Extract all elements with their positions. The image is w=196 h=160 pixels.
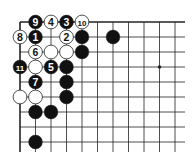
- white-stone-8: 8: [13, 30, 27, 44]
- move-number: 5: [48, 61, 54, 73]
- move-number: 3: [64, 16, 70, 28]
- black-stone: [60, 60, 74, 74]
- white-stone-6: 6: [29, 45, 43, 59]
- move-number: 1: [33, 31, 39, 43]
- white-stone: [29, 90, 43, 104]
- move-number: 8: [17, 31, 23, 43]
- white-stone: [60, 45, 74, 59]
- move-number: 9: [33, 16, 39, 28]
- black-stone: [75, 45, 89, 59]
- white-stone: [13, 90, 27, 104]
- move-number: 2: [64, 31, 70, 43]
- go-board-diagram: 9431081261157: [0, 0, 196, 160]
- white-stone: [29, 60, 43, 74]
- move-number: 7: [33, 76, 39, 88]
- white-stone: [44, 45, 58, 59]
- move-number: 4: [48, 16, 54, 28]
- black-stone-7: 7: [29, 75, 43, 89]
- black-stone-5: 5: [44, 60, 58, 74]
- white-stone-10: 10: [75, 15, 89, 29]
- black-stone: [106, 30, 120, 44]
- white-stone-4: 4: [44, 15, 58, 29]
- star-points: [158, 65, 162, 69]
- black-stone: [60, 75, 74, 89]
- black-stone-9: 9: [29, 15, 43, 29]
- move-number: 11: [16, 64, 25, 73]
- black-stone-1: 1: [29, 30, 43, 44]
- star-point: [158, 65, 162, 69]
- black-stone: [44, 105, 58, 119]
- move-number: 10: [78, 19, 87, 28]
- black-stone: [29, 105, 43, 119]
- white-stone-2: 2: [60, 30, 74, 44]
- black-stone-11: 11: [13, 60, 27, 74]
- move-number: 6: [33, 46, 39, 58]
- black-stone: [29, 135, 43, 149]
- black-stone-3: 3: [60, 15, 74, 29]
- board-grid: [20, 22, 185, 152]
- black-stone: [60, 90, 74, 104]
- black-stone: [75, 30, 89, 44]
